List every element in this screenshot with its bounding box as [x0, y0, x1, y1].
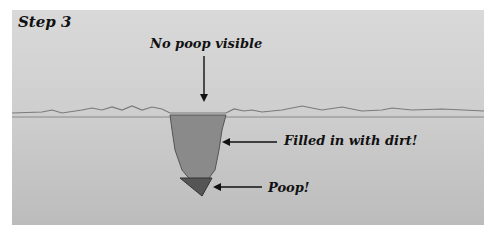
label-no-poop-visible: No poop visible: [150, 36, 262, 51]
step-label: Step 3: [18, 13, 71, 31]
diagram-panel: Step 3 No poop visible Filled in with di…: [12, 10, 484, 225]
label-poop: Poop!: [268, 180, 310, 195]
poop-region: [180, 178, 212, 196]
label-filled-with-dirt: Filled in with dirt!: [284, 133, 418, 148]
ground-line: [12, 106, 484, 113]
